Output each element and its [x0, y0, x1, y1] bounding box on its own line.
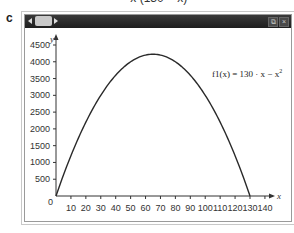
x-tick-label: 110: [213, 203, 227, 213]
x-tick-label: 50: [126, 203, 136, 213]
y-tick-label: 3000: [30, 90, 50, 100]
x-tick-label: 130: [242, 203, 257, 213]
y-tick-label: 3500: [30, 74, 50, 84]
x-tick-label: 140: [257, 203, 272, 213]
function-plot: 5001000150020002500300035004000450010203…: [0, 0, 294, 233]
x-tick-label: 70: [155, 203, 165, 213]
x-axis-label: x: [276, 191, 281, 201]
y-tick-label: 1000: [30, 157, 50, 167]
axes: 5001000150020002500300035004000450010203…: [30, 34, 275, 213]
y-tick-label: 1500: [30, 141, 50, 151]
x-tick-label: 10: [66, 203, 76, 213]
y-tick-label: 4000: [30, 57, 50, 67]
y-tick-label: 2000: [30, 124, 50, 134]
x-tick-label: 20: [81, 203, 91, 213]
y-tick-label: 4500: [30, 40, 50, 50]
y-tick-label: 2500: [30, 107, 50, 117]
x-tick-label: 100: [198, 203, 213, 213]
x-tick-label: 60: [141, 203, 151, 213]
y-axis-label: y: [49, 34, 54, 44]
x-tick-label: 40: [111, 203, 121, 213]
x-tick-label: 30: [96, 203, 106, 213]
y-tick-label: 500: [35, 174, 50, 184]
x-tick-label: 80: [170, 203, 180, 213]
x-tick-label: 120: [228, 203, 243, 213]
x-tick-label: 90: [185, 203, 195, 213]
origin-label: 0: [48, 197, 53, 207]
function-formula: f1(x) = 130 · x − x2: [212, 68, 282, 79]
